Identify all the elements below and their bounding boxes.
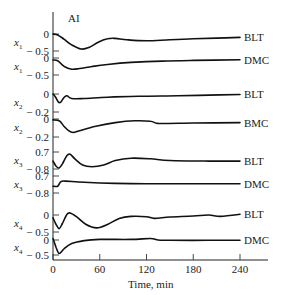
y-variable-label: x4 [13, 241, 23, 256]
y-tick-label: 0 [44, 28, 50, 40]
x-tick-label: 240 [232, 263, 249, 275]
y-tick-label: 0 [44, 88, 50, 100]
series-label: DMC [244, 234, 269, 246]
y-tick-label: 0.7 [35, 146, 49, 158]
y-tick-label: − 0.8 [26, 187, 49, 199]
y-tick-label: − 0.5 [26, 69, 49, 81]
y-tick-label: − 0.5 [26, 249, 49, 261]
y-variable-label: x1 [13, 36, 23, 51]
panels: 0− 0.5x1BLT0− 0.5x1DMC0− 0.2x2BLT0− 0.2x… [13, 28, 269, 261]
series-line [53, 94, 240, 103]
y-tick-label: 0 [44, 113, 50, 125]
chart-title: AI [68, 12, 80, 24]
y-tick-label: − 0.2 [26, 131, 49, 143]
panel-x3-dmc: 0.7− 0.8x3DMC [13, 170, 269, 199]
series-line [53, 181, 240, 187]
x-tick-label: 120 [138, 263, 155, 275]
series-label: DMC [244, 54, 269, 66]
series-label: BLT [244, 155, 264, 167]
panel-x2-bmc: 0− 0.2x2BMC [13, 113, 268, 143]
series-line [53, 120, 240, 133]
series-label: BLT [244, 88, 264, 100]
series-line [53, 154, 240, 168]
panel-x3-blt: 0.7− 0.8x3BLT [13, 146, 264, 175]
series-label: BLT [244, 31, 264, 43]
y-tick-label: 0 [44, 209, 50, 221]
x-tick-label: 180 [185, 263, 202, 275]
series-line [53, 34, 240, 49]
y-tick-label: 0.7 [35, 170, 49, 182]
series-line [53, 60, 240, 70]
series-label: BLT [244, 208, 264, 220]
panel-x1-blt: 0− 0.5x1BLT [13, 28, 264, 57]
panel-x4-blt: 0− 0.5x4BLT [13, 208, 264, 237]
y-variable-label: x2 [13, 96, 23, 111]
x-tick-label: 60 [94, 263, 106, 275]
y-variable-label: x4 [13, 217, 23, 232]
panel-x2-blt: 0− 0.2x2BLT [13, 88, 264, 118]
y-variable-label: x2 [13, 121, 23, 136]
x-tick-label: 0 [50, 263, 56, 275]
panel-x4-dmc: 0− 0.5x4DMC [13, 234, 269, 261]
x-axis-label: Time, min [128, 278, 174, 290]
series-line [53, 238, 240, 253]
y-variable-label: x3 [13, 154, 23, 169]
y-variable-label: x3 [13, 178, 23, 193]
series-line [53, 213, 240, 229]
y-tick-label: 0 [44, 234, 50, 246]
y-variable-label: x1 [13, 60, 23, 75]
y-tick-label: 0 [44, 52, 50, 64]
x-ticks: 060120180240 [50, 254, 249, 275]
panel-x1-dmc: 0− 0.5x1DMC [13, 52, 269, 81]
series-label: DMC [244, 178, 269, 190]
line-chart: AI 060120180240 0− 0.5x1BLT0− 0.5x1DMC0−… [0, 0, 285, 295]
series-label: BMC [244, 117, 268, 129]
